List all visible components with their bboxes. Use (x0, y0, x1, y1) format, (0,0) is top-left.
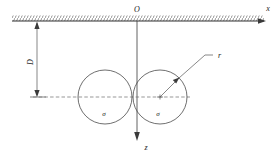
origin-label: O (134, 5, 140, 14)
radius-arrowhead (173, 78, 180, 84)
z-axis-arrowhead (134, 132, 140, 141)
right-circle-stress-label: σ (156, 110, 160, 118)
depth-dimension-arrow-bottom (34, 90, 39, 97)
radius-leader-line (179, 55, 205, 78)
x-axis-label: x (265, 4, 270, 13)
depth-label: D (26, 59, 35, 66)
z-axis-label: z (143, 143, 148, 152)
left-circle-stress-label: σ (102, 110, 106, 118)
depth-dimension-arrow-top (34, 22, 39, 30)
radius-label: r (218, 51, 222, 60)
ground-hatching (12, 16, 264, 22)
geotechnical-stress-bulb-diagram: O x z D r σ σ (0, 0, 277, 157)
diagram-canvas: O x z D r σ σ (0, 0, 277, 157)
